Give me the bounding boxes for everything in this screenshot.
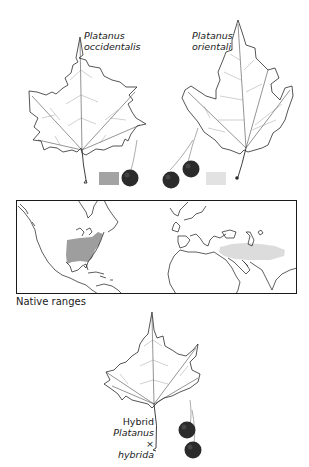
- hybrid-leaf-illustration: [0, 0, 309, 467]
- hybrid-title: Hybrid: [108, 416, 154, 427]
- hybrid-label: Hybrid Platanus × hybrida: [108, 416, 154, 460]
- hybrid-genus: Platanus: [108, 427, 154, 438]
- hybrid-fruit-icon: [179, 422, 196, 439]
- hybrid-epithet: × hybrida: [108, 438, 154, 460]
- hybrid-fruit-icon: [185, 442, 202, 459]
